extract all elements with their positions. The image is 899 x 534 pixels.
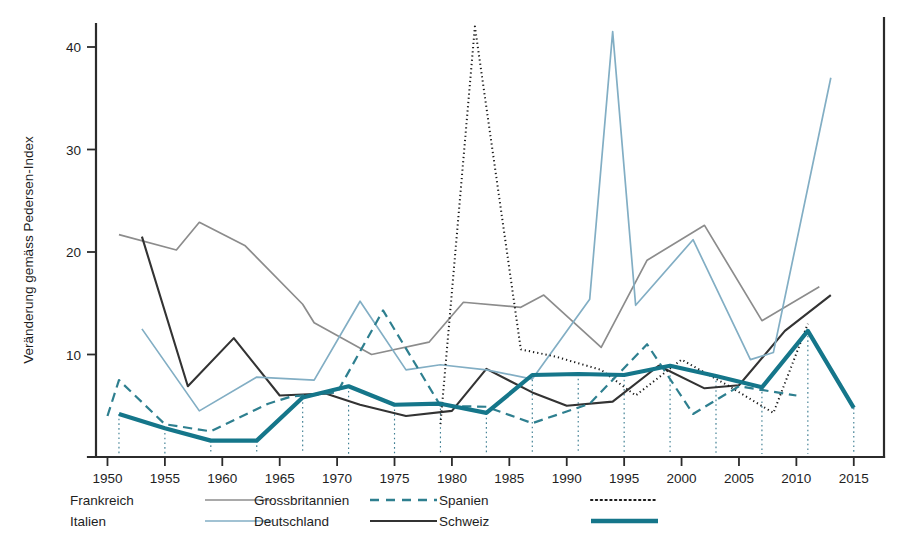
x-tick-label: 2005: [724, 471, 754, 486]
x-tick-label: 1980: [437, 471, 467, 486]
chart-legend: FrankreichItalienGrossbritannienDeutschl…: [70, 493, 658, 529]
x-tick-label: 1995: [609, 471, 639, 486]
y-tick-label: 40: [66, 40, 81, 55]
y-tick-label: 30: [66, 143, 81, 158]
x-tick-label: 2015: [839, 471, 869, 486]
legend-label-italien: Italien: [70, 514, 106, 529]
legend-label-deutschland: Deutschland: [254, 514, 329, 529]
x-tick-label: 1965: [265, 471, 295, 486]
series-line-schweiz: [119, 331, 854, 441]
series-line-frankreich: [119, 222, 819, 354]
legend-label-schweiz: Schweiz: [439, 514, 490, 529]
x-tick-label: 1955: [150, 471, 180, 486]
chart-container: Veränderung gemäss Pedersen-Index 102030…: [0, 0, 899, 534]
x-tick-label: 1960: [207, 471, 237, 486]
y-tick-label: 20: [66, 245, 81, 260]
y-tick-label: 10: [66, 348, 81, 363]
x-tick-label: 2010: [781, 471, 811, 486]
x-tick-label: 1985: [494, 471, 524, 486]
y-axis-label-group: Veränderung gemäss Pedersen-Index: [21, 136, 36, 364]
x-tick-label: 1970: [322, 471, 352, 486]
legend-label-frankreich: Frankreich: [70, 493, 134, 508]
line-chart: Veränderung gemäss Pedersen-Index 102030…: [0, 0, 899, 534]
series-line-spanien: [440, 27, 807, 425]
x-tick-label: 1990: [552, 471, 582, 486]
series-layer: [107, 27, 853, 441]
x-tick-label: 1950: [92, 471, 122, 486]
x-tick-label: 1975: [379, 471, 409, 486]
legend-label-grossbritannien: Grossbritannien: [254, 493, 349, 508]
legend-label-spanien: Spanien: [439, 493, 489, 508]
y-axis-label: Veränderung gemäss Pedersen-Index: [21, 136, 36, 364]
x-tick-label: 2000: [667, 471, 697, 486]
